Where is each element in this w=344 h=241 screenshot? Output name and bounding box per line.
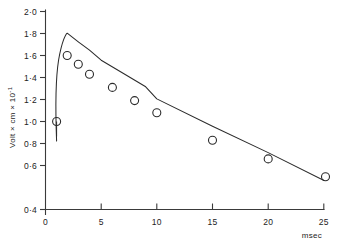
y-tick-label-1.6: 1·6 <box>24 51 37 61</box>
y-tick-label-0.8: 0·8 <box>24 139 37 149</box>
y-tick-label-1.0: 1·0 <box>24 117 37 127</box>
x-axis-title: msec <box>302 231 322 240</box>
x-tick-label-20: 20 <box>263 217 273 227</box>
y-tick-label-0.4: 0·4 <box>24 205 37 215</box>
figure-panel: 0·4 0·6 0·8 1·0 1·2 1·4 1·6 1·8 2·0 Volt… <box>0 0 344 241</box>
x-tick-label-25: 25 <box>319 217 329 227</box>
y-axis-title: Volt × cm × 10-1 <box>7 86 17 148</box>
y-tick-label-2.0: 2·0 <box>24 7 37 17</box>
y-tick-label-1.4: 1·4 <box>24 73 37 83</box>
y-axis-title-base: Volt × cm × 10 <box>8 92 17 148</box>
x-tick-label-15: 15 <box>208 217 218 227</box>
x-tick-label-10: 10 <box>152 217 162 227</box>
x-tick-label-5: 5 <box>99 217 104 227</box>
chart-background <box>0 0 344 241</box>
y-axis-title-exponent: -1 <box>7 86 13 92</box>
chart-svg: 0·4 0·6 0·8 1·0 1·2 1·4 1·6 1·8 2·0 Volt… <box>0 0 344 241</box>
y-tick-label-1.8: 1·8 <box>24 29 37 39</box>
y-tick-label-0.6: 0·6 <box>24 161 37 171</box>
y-tick-label-1.2: 1·2 <box>24 95 37 105</box>
x-tick-label-0: 0 <box>43 217 48 227</box>
